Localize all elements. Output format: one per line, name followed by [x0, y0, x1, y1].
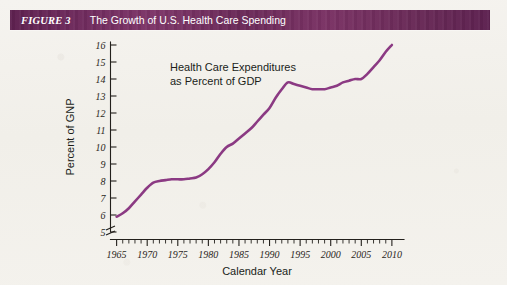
x-axis-major-ticks [117, 240, 392, 247]
y-tick-label: 12 [96, 108, 106, 119]
figure-header-bar: FIGURE 3 The Growth of U.S. Health Care … [10, 10, 490, 30]
x-axis-minor-ticks [123, 240, 386, 244]
x-tick-label: 2010 [382, 249, 402, 260]
x-tick-label: 1995 [290, 249, 310, 260]
x-tick-label: 1965 [107, 249, 127, 260]
y-tick-label: 14 [96, 74, 106, 85]
x-tick-label: 1990 [260, 249, 280, 260]
chart-annotation-line-2: as Percent of GDP [170, 75, 262, 87]
y-tick-label: 5 [101, 227, 106, 238]
x-axis-title: Calendar Year [222, 265, 292, 277]
y-tick-label: 13 [96, 91, 106, 102]
y-tick-label: 11 [96, 125, 105, 136]
y-axis-ticks: 5678910111213141516 [96, 40, 117, 238]
y-tick-label: 10 [96, 142, 106, 153]
x-tick-label: 2000 [321, 249, 341, 260]
x-tick-label: 1970 [137, 249, 157, 260]
y-tick-label: 8 [101, 176, 106, 187]
figure-title: The Growth of U.S. Health Care Spending [90, 14, 286, 26]
x-tick-label: 1985 [229, 249, 249, 260]
y-tick-label: 9 [101, 159, 106, 170]
y-tick-label: 16 [96, 40, 106, 51]
x-tick-label: 1975 [168, 249, 188, 260]
line-chart: 5678910111213141516 19651970197519801985… [0, 30, 507, 285]
chart-container: 5678910111213141516 19651970197519801985… [0, 30, 507, 285]
x-tick-label: 1980 [198, 249, 218, 260]
y-tick-label: 6 [101, 210, 106, 221]
y-tick-label: 7 [101, 193, 107, 204]
chart-annotation-line-1: Health Care Expenditures [170, 61, 296, 73]
x-tick-label: 2005 [351, 249, 371, 260]
figure-number-label: FIGURE 3 [21, 15, 71, 26]
y-axis-title: Percent of GNP [64, 98, 76, 175]
x-axis-tick-labels: 1965197019751980198519901995200020052010 [107, 249, 402, 260]
y-tick-label: 15 [96, 57, 106, 68]
